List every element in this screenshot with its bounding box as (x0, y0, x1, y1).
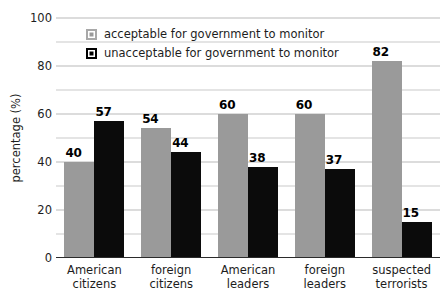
x-axis-category-labels: AmericancitizensforeigncitizensAmericanl… (56, 261, 440, 303)
bar-value-label: 57 (95, 105, 111, 119)
bar (94, 121, 124, 258)
y-axis-title: percentage (%) (6, 18, 26, 258)
bar-value-label: 37 (326, 153, 342, 167)
x-axis-category-label: foreignleaders (286, 263, 363, 291)
bar-value-label: 60 (296, 98, 312, 112)
bar (248, 167, 278, 258)
x-axis-category-label-line: leaders (286, 277, 363, 291)
bar (325, 169, 355, 258)
bar (171, 152, 201, 258)
legend-item: acceptable for government to monitor (86, 27, 339, 41)
legend-swatch-icon (86, 29, 97, 40)
bar (402, 222, 432, 258)
bar (218, 114, 248, 258)
x-axis-category-label-line: American (210, 263, 287, 277)
bar-value-label: 38 (249, 151, 265, 165)
y-axis-tick-label: 100 (26, 11, 52, 25)
y-axis-tick-labels: 020406080100 (24, 0, 52, 303)
x-axis-category-label: suspectedterrorists (363, 263, 440, 291)
legend: acceptable for government to monitorunac… (86, 27, 339, 60)
x-axis-category-label-line: suspected (363, 263, 440, 277)
x-axis-category-label: foreigncitizens (133, 263, 210, 291)
bar (64, 162, 94, 258)
x-axis-category-label-line: terrorists (363, 277, 440, 291)
x-axis-category-label: Americancitizens (56, 263, 133, 291)
bar (141, 128, 171, 258)
bar-value-label: 44 (172, 136, 188, 150)
y-axis-tick-label: 60 (26, 107, 52, 121)
y-axis-tick-label: 40 (26, 155, 52, 169)
x-axis-category-label-line: citizens (56, 277, 133, 291)
y-axis-tick-label: 20 (26, 203, 52, 217)
legend-item: unacceptable for government to monitor (86, 46, 339, 60)
x-axis-category-label-line: American (56, 263, 133, 277)
x-axis-category-label: Americanleaders (210, 263, 287, 291)
bar (372, 61, 402, 258)
bar-chart: percentage (%) 020406080100 405754446038… (0, 0, 443, 303)
bar-value-label: 15 (403, 206, 419, 220)
y-axis-tick-label: 0 (26, 251, 52, 265)
legend-swatch-icon (86, 48, 97, 59)
bar-value-label: 54 (142, 112, 158, 126)
legend-label: unacceptable for government to monitor (104, 46, 339, 60)
bar (295, 114, 325, 258)
x-axis-line (56, 257, 440, 259)
x-axis-category-label-line: leaders (210, 277, 287, 291)
x-axis-category-label-line: citizens (133, 277, 210, 291)
y-axis-tick-label: 80 (26, 59, 52, 73)
x-axis-category-label-line: foreign (133, 263, 210, 277)
x-axis-category-label-line: foreign (286, 263, 363, 277)
legend-label: acceptable for government to monitor (104, 27, 324, 41)
bar-value-label: 40 (65, 146, 81, 160)
bar-value-label: 82 (373, 45, 389, 59)
bar-value-label: 60 (219, 98, 235, 112)
y-axis-title-text: percentage (%) (9, 93, 23, 182)
